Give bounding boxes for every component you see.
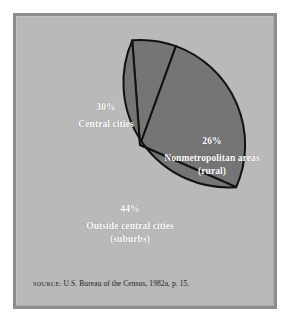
pie-label-central-cities-percent: 30%: [58, 101, 154, 113]
source-note: Source:U.S. Bureau of the Census, 1982a,…: [33, 279, 263, 288]
pie-label-nonmetropolitan-areas-subtitle: (rural): [150, 165, 274, 177]
pie-label-outside-central-cities: 44% Outside central cities (suburbs): [61, 203, 199, 245]
pie-label-central-cities-title: Central cities: [58, 118, 154, 130]
pie-label-outside-central-cities-subtitle: (suburbs): [61, 233, 199, 245]
source-note-text: U.S. Bureau of the Census, 1982a, p. 15.: [64, 279, 190, 288]
source-note-label: Source:: [33, 280, 62, 287]
pie-label-nonmetropolitan-areas-title: Nonmetropolitan areas: [150, 152, 274, 164]
pie-chart: 30% Central cities 26% Nonmetropolitan a…: [17, 17, 275, 307]
figure-root: 30% Central cities 26% Nonmetropolitan a…: [0, 0, 290, 322]
pie-label-nonmetropolitan-areas: 26% Nonmetropolitan areas (rural): [150, 135, 274, 177]
pie-label-outside-central-cities-title: Outside central cities: [61, 220, 199, 232]
pie-label-outside-central-cities-percent: 44%: [61, 203, 199, 215]
figure-frame: 30% Central cities 26% Nonmetropolitan a…: [13, 13, 277, 309]
pie-label-central-cities: 30% Central cities: [58, 101, 154, 131]
pie-label-nonmetropolitan-areas-percent: 26%: [150, 135, 274, 147]
figure-plate: 30% Central cities 26% Nonmetropolitan a…: [16, 16, 274, 306]
